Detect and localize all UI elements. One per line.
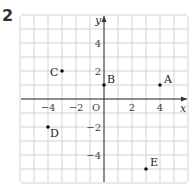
point-label-d: D — [50, 127, 59, 140]
x-arrow-icon — [181, 97, 187, 102]
x-tick-label: −4 — [41, 102, 56, 113]
y-tick-label: −4 — [86, 150, 101, 161]
point-c — [60, 69, 64, 73]
point-label-b: B — [107, 73, 115, 86]
point-a — [158, 83, 162, 87]
coordinate-plane: xyO−4−22442−2−4ABCDE — [0, 0, 193, 194]
point-label-a: A — [163, 73, 173, 86]
origin-label: O — [92, 102, 100, 113]
x-tick-label: −2 — [69, 102, 84, 113]
y-tick-label: 4 — [95, 38, 101, 49]
x-tick-label: 2 — [129, 102, 135, 113]
y-arrow-icon — [102, 16, 107, 22]
y-axis-label: y — [94, 14, 102, 27]
point-e — [144, 167, 148, 171]
y-tick-label: 2 — [95, 66, 101, 77]
point-label-c: C — [50, 66, 58, 79]
y-tick-label: −2 — [86, 122, 101, 133]
point-label-e: E — [150, 156, 158, 169]
x-axis-label: x — [180, 102, 187, 115]
x-tick-label: 4 — [157, 102, 163, 113]
point-b — [102, 83, 106, 87]
